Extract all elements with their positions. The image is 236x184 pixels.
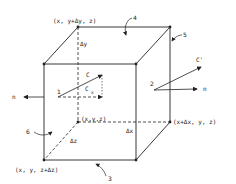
face-number-4: 4 — [133, 14, 137, 21]
vector-c-label: C — [86, 71, 90, 78]
face-6-leader-arrow — [34, 132, 52, 135]
dimension-dx: Δx — [126, 127, 134, 134]
corner-label-right: (x+Δx, y, z) — [173, 118, 216, 126]
cube-edges — [44, 27, 170, 160]
dimension-dy: Δy — [80, 40, 88, 48]
normal-n-right-arrow — [154, 89, 197, 90]
vector-c-prime-arrow — [154, 67, 201, 90]
face-5-leader-arrow — [172, 35, 182, 41]
vector-c-prime-label: C' — [196, 56, 203, 63]
face-number-2: 2 — [150, 80, 154, 87]
face-number-1: 1 — [57, 88, 61, 95]
corner-label-front: (x, y, z+Δz) — [15, 166, 58, 174]
face-number-6: 6 — [26, 128, 30, 135]
dimension-dz: Δz — [70, 137, 78, 144]
vector-cx-subscript: x — [91, 90, 94, 95]
control-volume-diagram: (x, y+Δy, z) (x,y,z) (x+Δx, y, z) (x, y,… — [0, 0, 236, 184]
corner-label-origin: (x,y,z) — [81, 115, 106, 123]
face-number-3: 3 — [108, 175, 112, 182]
face-number-5: 5 — [183, 31, 187, 38]
vector-c-arrow — [58, 75, 102, 97]
normal-n-left-label: n — [12, 93, 16, 100]
corner-label-top: (x, y+Δy, z) — [53, 17, 96, 25]
vector-cx-label: C — [85, 85, 89, 92]
normal-n-right-label: n — [203, 85, 207, 92]
face-3-leader-arrow — [96, 164, 106, 176]
face-4-leader-arrow — [125, 18, 132, 35]
